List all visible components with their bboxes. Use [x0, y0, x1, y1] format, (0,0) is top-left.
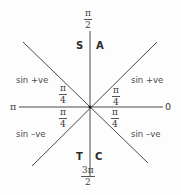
label-pi-over-2-denominator: 2 — [85, 20, 91, 30]
region-label-lower-right: sin –ve — [131, 130, 160, 139]
label-3pi-over-2-numerator: 3π — [81, 166, 95, 177]
angle-label-lower-right: π 4 — [111, 108, 119, 129]
angle-label-denominator: 4 — [60, 119, 66, 129]
angle-label-upper-right: π 4 — [112, 86, 120, 107]
label-zero-right: 0 — [165, 102, 171, 112]
quadrant-letter-a: A — [96, 41, 104, 51]
diagram-canvas: π 2 S A T C sin +ve sin +ve sin –ve sin … — [0, 0, 181, 195]
angle-label-denominator: 4 — [112, 119, 118, 129]
label-3pi-over-2: 3π 2 — [81, 166, 95, 187]
quadrant-letter-c: C — [95, 152, 102, 162]
region-label-upper-right: sin +ve — [131, 76, 163, 85]
quadrant-letter-t: T — [76, 152, 83, 162]
diagonal-upper-left-to-lower-right — [23, 42, 148, 163]
label-pi-over-2-numerator: π — [84, 9, 92, 20]
label-3pi-over-2-denominator: 2 — [85, 177, 91, 187]
angle-label-numerator: π — [112, 86, 120, 97]
region-label-lower-left: sin –ve — [16, 130, 45, 139]
label-pi-over-2: π 2 — [84, 9, 92, 30]
angle-label-numerator: π — [59, 108, 67, 119]
angle-label-denominator: 4 — [113, 97, 119, 107]
quadrant-letter-s: S — [76, 41, 83, 51]
diagonal-upper-right-to-lower-left — [32, 42, 157, 166]
label-pi-left: π — [10, 102, 16, 112]
angle-label-upper-left: π 4 — [59, 84, 67, 105]
angle-label-numerator: π — [111, 108, 119, 119]
region-label-upper-left: sin +ve — [16, 76, 48, 85]
angle-label-numerator: π — [59, 84, 67, 95]
angle-label-lower-left: π 4 — [59, 108, 67, 129]
origin-point — [88, 105, 91, 108]
angle-label-denominator: 4 — [60, 95, 66, 105]
